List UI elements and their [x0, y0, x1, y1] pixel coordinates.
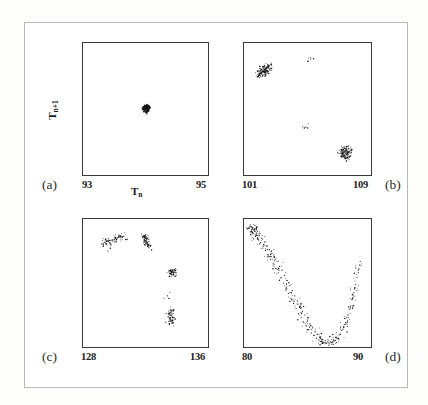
x-max-tick-a: 95: [196, 179, 206, 190]
scatter-plot-d: [244, 219, 371, 347]
x-axis-title: Tn: [131, 185, 143, 197]
plot-frame-d: [243, 218, 372, 348]
plot-frame-c: [82, 218, 209, 348]
x-min-tick-c: 128: [81, 351, 96, 362]
scatter-plot-c: [83, 219, 208, 347]
x-min-tick-a: 93: [82, 179, 92, 190]
plot-frame-a: [82, 42, 209, 176]
panel-tag-d: (d): [385, 349, 401, 365]
scatter-plot-b: [244, 43, 371, 175]
y-axis-title: Tn+1: [46, 100, 58, 120]
x-min-tick-d: 80: [242, 351, 252, 362]
x-max-tick-c: 136: [190, 351, 205, 362]
figure-container: 93 95 (a) Tn Tn+1 101 109 (b) 128 136 (c…: [0, 0, 428, 405]
x-axis-title-subscript: n: [138, 190, 142, 199]
x-max-tick-b: 109: [353, 179, 368, 190]
x-max-tick-d: 90: [353, 351, 363, 362]
panel-tag-b: (b): [385, 177, 401, 193]
plot-frame-b: [243, 42, 372, 176]
panel-tag-c: (c): [42, 349, 57, 365]
y-axis-title-subscript: n+1: [51, 100, 60, 112]
scatter-plot-a: [83, 43, 208, 175]
x-min-tick-b: 101: [242, 179, 257, 190]
y-axis-title-wrapper: Tn+1: [44, 78, 60, 142]
panel-tag-a: (a): [42, 177, 57, 193]
